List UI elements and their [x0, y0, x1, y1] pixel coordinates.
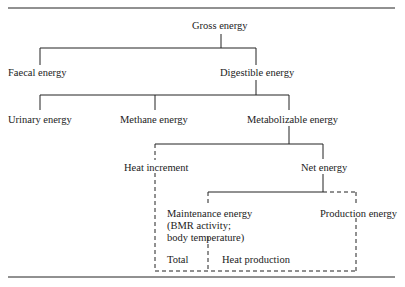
- label-total: Total: [167, 254, 188, 266]
- node-faecal-energy: Faecal energy: [8, 67, 66, 79]
- node-maintenance-energy: Maintenance energy: [167, 208, 252, 220]
- node-production-energy: Production energy: [320, 208, 397, 220]
- node-gross-energy: Gross energy: [192, 20, 248, 32]
- node-heat-increment: Heat increment: [124, 162, 188, 174]
- node-metabolizable-energy: Metabolizable energy: [247, 114, 338, 126]
- node-net-energy: Net energy: [301, 162, 347, 174]
- node-digestible-energy: Digestible energy: [220, 67, 294, 79]
- node-maintenance-detail-2: body temperature): [167, 232, 244, 244]
- node-maintenance-detail-1: (BMR activity;: [167, 220, 231, 232]
- node-urinary-energy: Urinary energy: [8, 114, 72, 126]
- label-heat-production: Heat production: [222, 254, 290, 266]
- node-methane-energy: Methane energy: [120, 114, 188, 126]
